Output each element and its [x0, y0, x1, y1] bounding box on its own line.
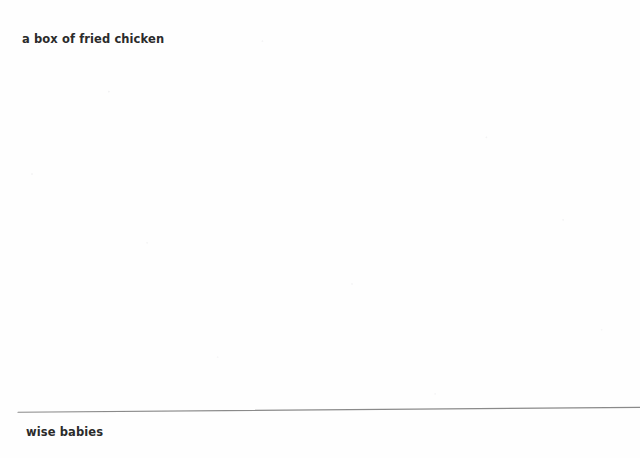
caption-bottom: wise babies: [26, 425, 103, 439]
paper-grain-texture: [0, 0, 640, 458]
rule-line: [18, 407, 640, 412]
caption-top: a box of fried chicken: [22, 32, 164, 46]
scanned-page: a box of fried chicken wise babies: [0, 0, 640, 458]
horizontal-rule: [0, 398, 640, 420]
